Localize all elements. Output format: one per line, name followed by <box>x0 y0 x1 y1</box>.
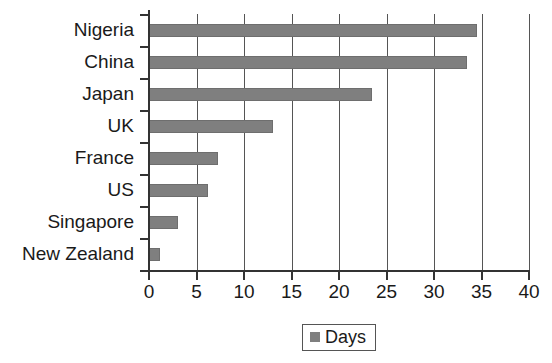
bar-nigeria <box>149 24 477 37</box>
gridline-40 <box>529 14 530 270</box>
category-label-nigeria: Nigeria <box>74 14 134 46</box>
x-tick-label-35: 35 <box>462 281 502 303</box>
gridline-5 <box>197 14 198 270</box>
bar-singapore <box>149 216 178 229</box>
gridline-30 <box>434 14 435 270</box>
gridline-35 <box>482 14 483 270</box>
bar-uk <box>149 120 273 133</box>
plot-area <box>149 14 529 270</box>
x-tick-40 <box>528 272 530 280</box>
category-label-china: China <box>84 46 134 78</box>
x-tick-0 <box>148 272 150 280</box>
bar-japan <box>149 88 372 101</box>
x-tick-15 <box>291 272 293 280</box>
bar-new-zealand <box>149 248 160 261</box>
x-tick-20 <box>338 272 340 280</box>
x-tick-30 <box>433 272 435 280</box>
x-tick-label-20: 20 <box>319 281 359 303</box>
category-label-new-zealand: New Zealand <box>22 238 134 270</box>
y-tick-1 <box>140 46 149 48</box>
x-tick-label-0: 0 <box>129 281 169 303</box>
x-tick-label-15: 15 <box>272 281 312 303</box>
y-tick-5 <box>140 174 149 176</box>
y-tick-0 <box>140 14 149 16</box>
x-tick-label-25: 25 <box>367 281 407 303</box>
category-label-singapore: Singapore <box>47 206 134 238</box>
category-label-us: US <box>108 174 134 206</box>
chart-legend: Days <box>302 324 376 351</box>
gridline-10 <box>244 14 245 270</box>
legend-label-days: Days <box>325 327 366 347</box>
gridline-25 <box>387 14 388 270</box>
x-tick-label-40: 40 <box>509 281 549 303</box>
x-tick-label-5: 5 <box>177 281 217 303</box>
gridline-20 <box>339 14 340 270</box>
x-tick-5 <box>196 272 198 280</box>
y-tick-7 <box>140 238 149 240</box>
category-label-japan: Japan <box>82 78 134 110</box>
x-tick-10 <box>243 272 245 280</box>
x-tick-35 <box>481 272 483 280</box>
category-label-uk: UK <box>108 110 134 142</box>
gridline-15 <box>292 14 293 270</box>
category-label-france: France <box>75 142 134 174</box>
bar-france <box>149 152 218 165</box>
y-tick-6 <box>140 206 149 208</box>
bar-china <box>149 56 467 69</box>
x-tick-label-10: 10 <box>224 281 264 303</box>
bar-us <box>149 184 208 197</box>
y-tick-3 <box>140 110 149 112</box>
y-tick-2 <box>140 78 149 80</box>
category-axis-labels: NigeriaChinaJapanUKFranceUSSingaporeNew … <box>0 14 142 270</box>
bar-chart: NigeriaChinaJapanUKFranceUSSingaporeNew … <box>0 0 552 363</box>
x-tick-25 <box>386 272 388 280</box>
y-tick-4 <box>140 142 149 144</box>
x-tick-label-30: 30 <box>414 281 454 303</box>
legend-swatch-icon <box>310 332 320 342</box>
